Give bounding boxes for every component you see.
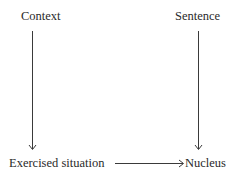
arrow-context-to-exercised-situation — [29, 31, 36, 150]
arrow-sentence-to-nucleus — [195, 31, 202, 150]
arrow-exercised-situation-to-nucleus — [115, 160, 184, 167]
edges — [0, 0, 236, 173]
